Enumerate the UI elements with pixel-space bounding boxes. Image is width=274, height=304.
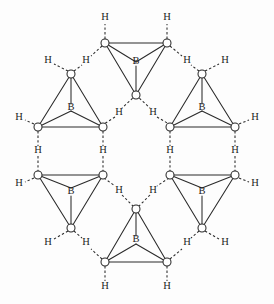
bond-to-boron <box>38 175 71 188</box>
bond-edge <box>170 175 202 228</box>
hydrogen-label: H <box>82 236 90 247</box>
bond-edge <box>105 209 136 262</box>
bridging-hydrogen-label: H <box>115 106 123 117</box>
ring-atom <box>67 70 75 78</box>
hydrogen-label: H <box>163 11 171 22</box>
ring-atom <box>231 123 239 131</box>
bridging-hydrogen-label: H <box>115 184 123 195</box>
terminal-bond <box>25 178 34 182</box>
ring-atom <box>166 171 174 179</box>
bond-to-boron <box>170 175 202 188</box>
terminal-bond <box>54 64 68 71</box>
terminal-bond <box>239 120 249 124</box>
ring-atom <box>99 171 107 179</box>
terminal-bond <box>25 120 34 124</box>
ring-atom <box>198 224 206 232</box>
boron-label: B <box>132 233 139 244</box>
bridging-hydrogen-label: H <box>149 184 157 195</box>
hydrogen-label: H <box>15 111 23 122</box>
ring-atom <box>166 123 174 131</box>
terminal-bond <box>54 231 68 239</box>
hydrogen-label: H <box>44 236 52 247</box>
hydrogen-label: H <box>221 236 229 247</box>
bond-edge <box>136 209 167 262</box>
ring-atom <box>132 205 140 213</box>
bridge-bond <box>104 178 115 186</box>
boron-unit-lower-left <box>38 175 103 228</box>
ring-atom <box>132 91 140 99</box>
hydrogen-label: H <box>44 54 52 65</box>
bond-edge <box>202 175 235 228</box>
bond-to-boron <box>136 43 167 62</box>
terminal-bond <box>91 46 102 56</box>
bridging-hydrogen-labels: H H H H H H H H <box>34 106 239 195</box>
bond-edge <box>38 175 71 228</box>
ring-atom <box>101 258 109 266</box>
bond-to-boron <box>202 175 235 188</box>
hydrogen-label: H <box>183 236 191 247</box>
ring-atom <box>198 70 206 78</box>
bridging-hydrogen-label: H <box>99 144 107 155</box>
hydrogen-label: H <box>101 11 109 22</box>
hydrogen-label: H <box>251 177 259 188</box>
hydrogen-label: H <box>183 54 191 65</box>
bond-to-boron <box>105 244 136 262</box>
bridging-hydrogen-label: H <box>149 106 157 117</box>
terminal-hydrogen-labels: H H H H H H H H H H H H H H H H <box>15 11 259 291</box>
bond-to-boron <box>105 43 136 62</box>
boron-unit-lower-right <box>170 175 235 228</box>
terminal-bond <box>170 46 182 56</box>
hydrogen-label: H <box>251 111 259 122</box>
bridging-hydrogen-label: H <box>231 144 239 155</box>
hydrogen-label: H <box>15 177 23 188</box>
hydrogen-label: H <box>221 54 229 65</box>
ring-atom <box>67 224 75 232</box>
bridging-hydrogen-label: H <box>34 144 42 155</box>
ring-atom <box>231 171 239 179</box>
ring-atom <box>101 39 109 47</box>
chemical-structure-diagram: B B B B B B H H H H H H H H H H H H H H … <box>0 0 274 304</box>
bond-edge <box>136 43 167 95</box>
bond-edge <box>71 175 103 228</box>
terminal-bond <box>191 231 199 238</box>
ring-atom <box>99 123 107 131</box>
bond-to-boron <box>136 244 167 262</box>
boron-label: B <box>132 55 139 66</box>
bridge-bond <box>157 117 169 124</box>
structure-canvas: B B B B B B H H H H H H H H H H H H H H … <box>0 0 274 304</box>
boron-label: B <box>198 185 205 196</box>
terminal-bond <box>239 178 249 182</box>
boron-label: B <box>67 185 74 196</box>
terminal-bond <box>205 231 219 239</box>
terminal-bond <box>170 249 182 259</box>
boron-label: B <box>67 101 74 112</box>
terminal-bond <box>74 65 82 71</box>
ring-atom <box>34 123 42 131</box>
hydrogen-label: H <box>163 280 171 291</box>
hydrogen-label: H <box>101 280 109 291</box>
bond-edge <box>105 43 136 95</box>
bridge-bond <box>157 178 169 186</box>
bridging-bonds-inner <box>103 95 170 209</box>
bond-to-boron <box>71 175 103 188</box>
hydrogen-label: H <box>82 54 90 65</box>
ring-atom <box>163 39 171 47</box>
terminal-bond <box>91 249 102 259</box>
terminal-bond <box>74 231 82 238</box>
boron-label: B <box>198 101 205 112</box>
ring-atom <box>34 171 42 179</box>
ring-atom <box>163 258 171 266</box>
terminal-bond <box>191 65 199 71</box>
terminal-bond <box>205 64 219 71</box>
boron-unit-top <box>105 43 167 95</box>
bridging-hydrogen-label: H <box>166 144 174 155</box>
bridge-bond <box>104 117 115 124</box>
